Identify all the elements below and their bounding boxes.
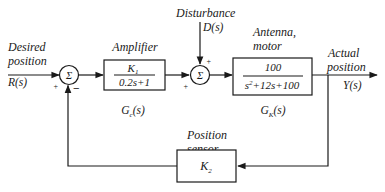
plant-title-line2: motor <box>253 39 282 53</box>
output-label-line2: position <box>326 60 366 74</box>
sensor-title-line1: Position <box>186 128 227 142</box>
plant-denominator: s2+12s+100 <box>245 79 300 91</box>
input-label-line1: Desired <box>7 40 47 54</box>
sum1-minus-sign: − <box>73 82 79 94</box>
plant-tf-label: GK(s) <box>260 104 285 119</box>
sum2-disturbance-sign: + <box>206 57 211 66</box>
sum1-plus-sign: + <box>53 82 58 91</box>
amplifier-title: Amplifier <box>111 40 158 54</box>
disturbance-label: Disturbance <box>175 6 236 20</box>
summing-junction-1: Σ + − <box>53 66 79 95</box>
sensor-to-sum1-line <box>68 86 177 167</box>
plant-block: 100 s2+12s+100 <box>233 58 312 95</box>
input-label-line2: position <box>7 54 47 68</box>
sigma-symbol: Σ <box>196 70 204 81</box>
plant-numerator: 100 <box>265 61 282 73</box>
summing-junction-2: Σ + + <box>183 57 211 91</box>
output-signal-label: Y(s) <box>343 79 362 92</box>
sum2-input-sign: + <box>183 82 188 91</box>
block-diagram: Desired position R(s) Σ + − Amplifier K1… <box>0 0 385 192</box>
sigma-symbol: Σ <box>65 70 73 81</box>
output-label-line1: Actual <box>327 46 360 60</box>
input-signal-label: R(s) <box>7 76 27 89</box>
sensor-block: K2 <box>177 150 236 182</box>
disturbance-signal-label: D(s) <box>202 21 224 34</box>
amplifier-block: K1 0.2s+1 <box>104 60 165 90</box>
amplifier-tf-label: Gc(s) <box>121 104 145 119</box>
plant-title-line1: Antenna, <box>252 25 296 39</box>
amplifier-denominator: 0.2s+1 <box>119 76 150 88</box>
